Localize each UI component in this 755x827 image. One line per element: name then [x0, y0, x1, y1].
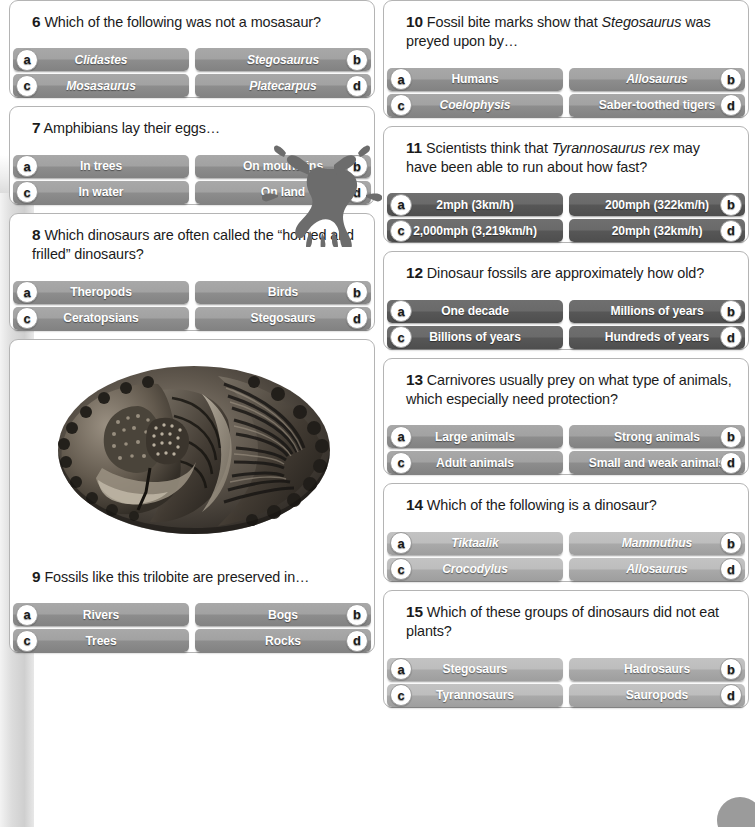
answer-letter-badge-d[interactable]: d: [720, 452, 742, 474]
answer-letter-badge-c[interactable]: c: [16, 630, 38, 652]
answer-option-c[interactable]: Crocodylusc: [387, 558, 563, 581]
answer-option-a[interactable]: Stegosaursa: [387, 658, 563, 681]
answer-option-d[interactable]: Sauropodsd: [569, 684, 745, 707]
answer-option-c[interactable]: In waterc: [13, 181, 189, 204]
answer-option-d[interactable]: Saber-toothed tigersd: [569, 94, 745, 117]
answer-option-d[interactable]: Rocksd: [195, 629, 371, 652]
answer-label: In water: [79, 185, 124, 199]
answer-letter-badge-c[interactable]: c: [390, 684, 412, 706]
answer-option-a[interactable]: Large animalsa: [387, 425, 563, 448]
answer-label: Hundreds of years: [605, 330, 710, 344]
answer-letter-badge-b[interactable]: b: [346, 155, 368, 177]
answer-option-a[interactable]: 2mph (3km/h)a: [387, 193, 563, 216]
answer-letter-badge-a[interactable]: a: [16, 604, 38, 626]
answer-letter-badge-c[interactable]: c: [16, 75, 38, 97]
answer-label: Adult animals: [436, 456, 514, 470]
answer-option-a[interactable]: Clidastesa: [13, 48, 189, 71]
answer-option-d[interactable]: Stegosaursd: [195, 307, 371, 330]
answer-letter-badge-d[interactable]: d: [720, 326, 742, 348]
answer-letter-badge-b[interactable]: b: [720, 426, 742, 448]
answer-letter-badge-a[interactable]: a: [390, 194, 412, 216]
answer-row: CrocodyluscAllosaurusd: [375, 558, 755, 581]
answer-option-b[interactable]: Bogsb: [195, 603, 371, 626]
answer-letter-badge-c[interactable]: c: [390, 94, 412, 116]
answer-option-a[interactable]: Tiktaalika: [387, 532, 563, 555]
answer-option-c[interactable]: Treesc: [13, 629, 189, 652]
answer-option-d[interactable]: Hundreds of yearsd: [569, 326, 745, 349]
question-text-part: Tyrannosaurus rex: [552, 140, 669, 156]
answer-letter-badge-a[interactable]: a: [390, 68, 412, 90]
answer-option-b[interactable]: Allosaurusb: [569, 68, 745, 91]
answer-letter-badge-a[interactable]: a: [390, 300, 412, 322]
answer-letter-badge-d[interactable]: d: [346, 181, 368, 203]
answer-option-a[interactable]: Theropodsa: [13, 281, 189, 304]
answer-option-b[interactable]: Mammuthusb: [569, 532, 745, 555]
answer-option-c[interactable]: Tyrannosaursc: [387, 684, 563, 707]
question-card: 13 Carnivores usually prey on what type …: [383, 358, 749, 476]
answer-letter-badge-b[interactable]: b: [346, 49, 368, 71]
answer-option-a[interactable]: One decadea: [387, 300, 563, 323]
answer-row: Billions of yearscHundreds of yearsd: [375, 326, 755, 349]
answer-option-b[interactable]: Millions of yearsb: [569, 300, 745, 323]
answer-letter-badge-a[interactable]: a: [16, 155, 38, 177]
answer-option-d[interactable]: 20mph (32km/h)d: [569, 219, 745, 242]
answer-letter-badge-b[interactable]: b: [346, 604, 368, 626]
answer-option-b[interactable]: Stegosaurusb: [195, 48, 371, 71]
answer-letter-badge-a[interactable]: a: [390, 658, 412, 680]
answer-letter-badge-c[interactable]: c: [16, 307, 38, 329]
answer-letter-badge-c[interactable]: c: [390, 220, 412, 242]
answer-letter-badge-c[interactable]: c: [390, 326, 412, 348]
answer-option-a[interactable]: Riversa: [13, 603, 189, 626]
answer-option-c[interactable]: Adult animalsc: [387, 451, 563, 474]
answer-label: 2,000mph (3,219km/h): [413, 224, 537, 238]
answer-letter-badge-d[interactable]: d: [346, 75, 368, 97]
answer-letter-badge-d[interactable]: d: [720, 94, 742, 116]
answer-letter-badge-c[interactable]: c: [16, 181, 38, 203]
answer-option-d[interactable]: Platecarpusd: [195, 74, 371, 97]
question-number: 8: [32, 226, 40, 243]
answer-option-b[interactable]: Hadrosaursb: [569, 658, 745, 681]
answer-option-c[interactable]: 2,000mph (3,219km/h)c: [387, 219, 563, 242]
answer-option-b[interactable]: Birdsb: [195, 281, 371, 304]
answer-row: RiversaBogsb: [1, 603, 383, 626]
answer-option-a[interactable]: In treesa: [13, 155, 189, 178]
answer-letter-badge-b[interactable]: b: [346, 281, 368, 303]
answer-label: Stegosaurs: [443, 662, 508, 676]
answer-option-c[interactable]: Billions of yearsc: [387, 326, 563, 349]
answer-row: 2mph (3km/h)a200mph (322km/h)b: [375, 193, 755, 216]
answer-option-b[interactable]: 200mph (322km/h)b: [569, 193, 745, 216]
answer-option-a[interactable]: Humansa: [387, 68, 563, 91]
question-text: 10 Fossil bite marks show that Stegosaur…: [384, 1, 748, 62]
answer-label: Tyrannosaurs: [436, 688, 514, 702]
quiz-column-right: 10 Fossil bite marks show that Stegosaur…: [383, 0, 749, 716]
answer-label: Small and weak animals: [589, 456, 725, 470]
answer-letter-badge-b[interactable]: b: [720, 68, 742, 90]
answer-letter-badge-a[interactable]: a: [390, 532, 412, 554]
answer-letter-badge-d[interactable]: d: [346, 630, 368, 652]
answer-letter-badge-d[interactable]: d: [720, 220, 742, 242]
answer-letter-badge-c[interactable]: c: [390, 558, 412, 580]
answer-letter-badge-a[interactable]: a: [390, 426, 412, 448]
answer-letter-badge-a[interactable]: a: [16, 49, 38, 71]
answer-option-d[interactable]: Small and weak animalsd: [569, 451, 745, 474]
answer-letter-badge-b[interactable]: b: [720, 532, 742, 554]
answer-options: 2mph (3km/h)a200mph (322km/h)b2,000mph (…: [375, 193, 755, 242]
answer-label: Stegosaurus: [247, 53, 319, 67]
answer-row: TyrannosaurscSauropodsd: [375, 684, 755, 707]
answer-option-c[interactable]: Ceratopsiansc: [13, 307, 189, 330]
answer-letter-badge-d[interactable]: d: [720, 684, 742, 706]
answer-letter-badge-b[interactable]: b: [720, 300, 742, 322]
answer-option-d[interactable]: On landd: [195, 181, 371, 204]
answer-letter-badge-d[interactable]: d: [720, 558, 742, 580]
answer-option-d[interactable]: Allosaurusd: [569, 558, 745, 581]
answer-letter-badge-b[interactable]: b: [720, 194, 742, 216]
answer-letter-badge-c[interactable]: c: [390, 452, 412, 474]
answer-option-c[interactable]: Coelophysisc: [387, 94, 563, 117]
answer-option-b[interactable]: Strong animalsb: [569, 425, 745, 448]
answer-option-c[interactable]: Mosasaurusc: [13, 74, 189, 97]
answer-letter-badge-a[interactable]: a: [16, 281, 38, 303]
quiz-column-left: 6 Which of the following was not a mosas…: [9, 0, 375, 661]
answer-letter-badge-b[interactable]: b: [720, 658, 742, 680]
answer-letter-badge-d[interactable]: d: [346, 307, 368, 329]
answer-option-b[interactable]: On mountainsb: [195, 155, 371, 178]
